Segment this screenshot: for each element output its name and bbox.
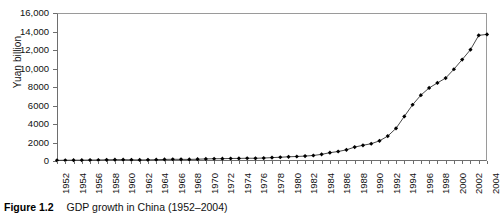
y-axis-tick-labels: 0200040006000800010,00012,00014,00016,00… <box>0 0 57 176</box>
x-axis-tick-label: 1992 <box>392 173 402 194</box>
x-axis-tick-label: 1974 <box>243 173 253 194</box>
data-point-marker <box>270 156 274 160</box>
data-point-marker <box>286 155 290 159</box>
figure-caption-label: Figure 1.2 <box>4 201 54 213</box>
x-axis-tick-label: 2002 <box>474 173 484 194</box>
x-axis-tick-label: 1954 <box>78 173 88 194</box>
x-axis-tick-label: 1966 <box>177 173 187 194</box>
data-point-marker <box>485 32 489 36</box>
y-axis-tick-label: 4000 <box>28 119 49 129</box>
x-axis-tick-label: 1972 <box>226 173 236 194</box>
x-axis-tick-label: 1960 <box>127 173 137 194</box>
x-axis-tick-label: 1990 <box>375 173 385 194</box>
data-point-marker <box>336 149 340 153</box>
x-axis-tick-label: 1984 <box>326 173 336 194</box>
y-axis-tick-label: 8000 <box>28 82 49 92</box>
x-axis-tick-label: 1986 <box>342 173 352 194</box>
data-point-marker <box>369 142 373 146</box>
data-point-marker <box>377 139 381 143</box>
x-axis-tick-label: 1996 <box>425 173 435 194</box>
y-axis-tick-label: 2000 <box>28 138 49 148</box>
x-axis-tick-label: 2000 <box>458 173 468 194</box>
x-axis-tick-label: 1964 <box>160 173 170 194</box>
figure-container: Yuan billion 0200040006000800010,00012,0… <box>0 0 500 221</box>
x-axis-tick-label: 1968 <box>193 173 203 194</box>
x-axis-tick-label: 1970 <box>210 173 220 194</box>
x-axis-tick-label: 1952 <box>61 173 71 194</box>
data-point-marker <box>320 152 324 156</box>
data-point-marker <box>311 153 315 157</box>
x-axis-tick-label: 1978 <box>276 173 286 194</box>
x-axis-tick-label: 1958 <box>111 173 121 194</box>
data-point-marker <box>253 156 257 160</box>
x-axis-tick-label: 2004 <box>491 173 500 194</box>
data-point-marker <box>344 148 348 152</box>
y-axis-tick-label: 14,000 <box>20 27 49 37</box>
data-point-marker <box>295 154 299 158</box>
y-axis-tick-label: 16,000 <box>20 8 49 18</box>
x-axis-tick-label: 1998 <box>441 173 451 194</box>
chart-area: Yuan billion 0200040006000800010,00012,0… <box>0 0 500 196</box>
y-axis-tick-label: 10,000 <box>20 64 49 74</box>
data-point-marker <box>237 156 241 160</box>
y-axis-tick-label: 6000 <box>28 101 49 111</box>
data-point-marker <box>361 143 365 147</box>
series-line <box>57 34 487 160</box>
data-point-marker <box>278 155 282 159</box>
figure-caption-text: GDP growth in China (1952–2004) <box>67 201 228 213</box>
data-point-marker <box>262 156 266 160</box>
data-point-marker <box>328 151 332 155</box>
data-point-marker <box>477 33 481 37</box>
data-point-marker <box>353 145 357 149</box>
x-axis-tick-label: 1956 <box>94 173 104 194</box>
x-axis-tick-label: 1980 <box>293 173 303 194</box>
y-axis-tick-label: 12,000 <box>20 45 49 55</box>
gdp-series-line <box>57 13 487 161</box>
data-point-marker <box>245 156 249 160</box>
x-axis-tick-labels: 1952195419561958196019621964196619681970… <box>0 164 500 196</box>
x-axis-tick-label: 1976 <box>259 173 269 194</box>
data-point-marker <box>303 154 307 158</box>
data-point-marker <box>435 81 439 85</box>
x-axis-tick-label: 1962 <box>144 173 154 194</box>
x-axis-tick-label: 1982 <box>309 173 319 194</box>
data-point-marker <box>229 156 233 160</box>
x-axis-tick-label: 1988 <box>359 173 369 194</box>
figure-caption: Figure 1.2GDP growth in China (1952–2004… <box>4 201 496 214</box>
x-axis-tick-label: 1994 <box>408 173 418 194</box>
